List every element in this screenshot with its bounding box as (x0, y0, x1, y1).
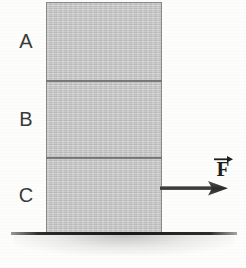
ground-shadow (14, 235, 234, 255)
divider-b-c (46, 157, 162, 159)
block-label-b: B (14, 109, 38, 129)
divider-a-b (46, 80, 162, 82)
block-c (46, 157, 162, 234)
block-label-c: C (14, 185, 38, 205)
block-b (46, 80, 162, 157)
block-stack (46, 2, 162, 234)
block-a (46, 2, 162, 80)
force-label-text: F (208, 159, 238, 180)
physics-diagram: A B C F (0, 0, 246, 268)
force-label: F (208, 151, 238, 181)
block-label-a: A (14, 31, 38, 51)
